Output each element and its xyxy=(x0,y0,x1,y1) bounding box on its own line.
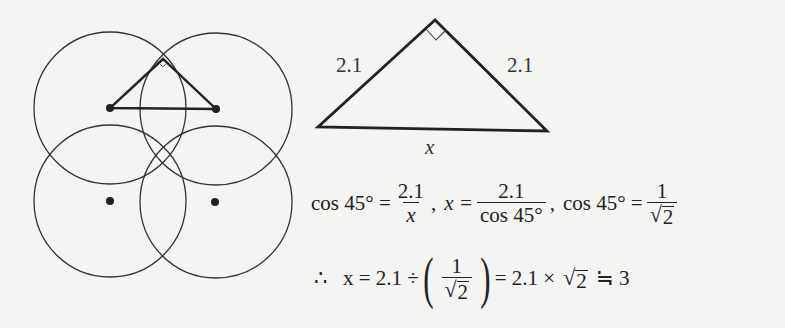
fraction-2.1-over-x: 2.1 x xyxy=(395,180,427,227)
sqrt-icon: √ xyxy=(650,203,662,227)
fraction-2.1-over-cos45: 2.1 cos 45° xyxy=(477,180,546,227)
eq1-lhs: cos 45° = xyxy=(311,191,391,216)
sqrt-icon: √ xyxy=(563,265,575,291)
right-side-label: 2.1 xyxy=(507,53,533,78)
sqrt-expression: √2 xyxy=(563,265,588,291)
base-label: x xyxy=(425,135,434,160)
center-dot xyxy=(106,197,114,205)
right-angle-mark xyxy=(426,29,446,40)
right-paren: ) xyxy=(480,250,490,306)
center-dot xyxy=(211,198,219,206)
eq3-lhs: cos 45° = xyxy=(563,191,643,216)
sqrt-icon: √ xyxy=(445,278,457,302)
fraction-1-over-sqrt2: 1 √2 xyxy=(442,255,473,302)
center-dot xyxy=(212,105,220,113)
left-paren: ( xyxy=(423,250,433,306)
eq-mid: = 2.1 × xyxy=(495,266,555,291)
center-dot xyxy=(106,104,114,112)
equation-line-2: ∴ x = 2.1 ÷ ( 1 √2 ) = 2.1 × √2 ≒ 3 xyxy=(314,250,630,306)
left-side-label: 2.1 xyxy=(336,53,362,78)
approx-result: ≒ 3 xyxy=(596,266,630,291)
right-angle-mark-small xyxy=(159,63,167,67)
fraction-1-over-sqrt2: 1 √2 xyxy=(647,180,678,227)
eq2-lhs: x = xyxy=(444,191,473,216)
therefore-symbol: ∴ xyxy=(314,266,327,291)
eq-lhs: x = 2.1 ÷ xyxy=(343,266,419,291)
equation-line-1: cos 45° = 2.1 x , x = 2.1 cos 45° , cos … xyxy=(311,180,681,227)
